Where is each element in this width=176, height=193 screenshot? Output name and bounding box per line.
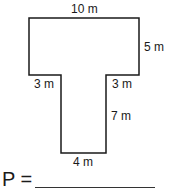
label-stem-right: 7 m bbox=[111, 110, 131, 122]
label-top: 10 m bbox=[71, 3, 98, 15]
label-right-top: 5 m bbox=[144, 41, 164, 53]
answer-blank-line[interactable] bbox=[35, 187, 155, 188]
label-right-step: 3 m bbox=[112, 78, 132, 90]
label-left-step: 3 m bbox=[34, 78, 54, 90]
label-bottom: 4 m bbox=[73, 156, 93, 168]
perimeter-prompt: P = bbox=[2, 169, 32, 189]
